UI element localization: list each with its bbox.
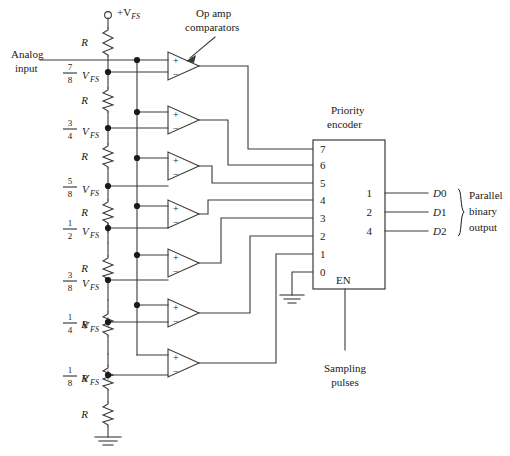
ladder-tap-label-2: 3 4 V FS [63,118,99,141]
ground-symbol-ladder [95,437,121,445]
opamp-comparators-label: Op amp comparators [185,7,239,33]
svg-text:−: − [173,217,179,228]
svg-text:+: + [173,155,179,166]
svg-text:7: 7 [320,143,326,155]
svg-text:Parallel: Parallel [469,189,503,201]
svg-text:encoder: encoder [327,118,362,130]
comparator-signs: + − + − + − + − + − + − + − [173,55,179,377]
svg-text:V: V [82,372,90,384]
svg-text:4: 4 [320,194,326,206]
svg-text:+: + [173,55,179,66]
svg-text:5: 5 [68,176,73,186]
svg-text:4: 4 [68,131,73,141]
svg-text:1: 1 [68,218,73,228]
svg-text:+: + [173,352,179,363]
ladder-tap-label-4: 1 2 V FS [63,218,99,241]
svg-text:input: input [15,62,38,74]
callout-leader-line [190,37,215,58]
svg-text:1: 1 [68,312,73,322]
wire-comparator6-to-in2 [199,236,313,313]
svg-text:5: 5 [320,177,326,189]
supply-terminal [105,12,112,28]
svg-text:4: 4 [367,225,373,237]
wire-comparator2-to-in6 [199,120,313,165]
svg-text:+: + [173,203,179,214]
svg-text:2: 2 [320,230,326,242]
svg-text:−: − [173,316,179,327]
svg-text:R: R [80,94,88,106]
svg-text:2: 2 [367,206,373,218]
svg-text:FS: FS [89,378,99,387]
svg-text:−: − [173,366,179,377]
svg-text:FS: FS [89,189,99,198]
svg-text:V: V [82,225,90,237]
svg-text:3: 3 [68,118,73,128]
svg-text:R: R [80,36,88,48]
svg-text:2: 2 [68,231,73,241]
wire-comparator4-to-in4 [199,200,313,214]
svg-text:8: 8 [68,283,73,293]
svg-text:1: 1 [68,365,73,375]
svg-text:Op amp: Op amp [196,7,232,19]
svg-text:EN: EN [336,274,351,286]
callout-arrowhead [186,55,196,63]
svg-text:V: V [82,125,90,137]
svg-text:−: − [173,123,179,134]
sampling-pulses-label: Sampling pulses [324,362,367,388]
svg-text:FS: FS [89,75,99,84]
svg-text:1: 1 [367,187,373,199]
svg-text:V: V [82,183,90,195]
svg-text:3: 3 [320,212,326,224]
svg-text:6: 6 [320,159,326,171]
svg-text:D0: D0 [432,187,447,199]
svg-text:3: 3 [68,270,73,280]
svg-text:V: V [82,319,90,331]
svg-text:R: R [80,150,88,162]
svg-text:4: 4 [68,325,73,335]
ladder-resistor-1 [103,28,113,56]
encoder-output-pins: 1 2 4 [367,187,373,237]
svg-text:FS: FS [89,231,99,240]
svg-text:D1: D1 [432,206,446,218]
ladder-resistor-8 [103,402,113,426]
wire-comparator3-to-in5 [199,166,313,183]
ladder-resistor-2 [103,88,113,112]
svg-text:V: V [82,277,90,289]
svg-text:7: 7 [68,62,73,72]
svg-text:Priority: Priority [331,104,365,116]
svg-text:−: − [173,266,179,277]
output-brace [458,189,464,236]
svg-text:+: + [173,109,179,120]
priority-encoder-label: Priority encoder [327,104,365,130]
svg-text:D2: D2 [432,225,446,237]
svg-text:pulses: pulses [331,376,359,388]
wire-in0-to-ground [292,272,313,295]
svg-text:binary: binary [469,205,498,217]
ladder-tap-label-3: 5 8 V FS [63,176,99,199]
svg-text:8: 8 [68,75,73,85]
ladder-resistor-3 [103,144,113,168]
circuit-schematic: +VFS Analog input Op amp comparators R R… [0,0,510,456]
svg-text:8: 8 [68,378,73,388]
ladder-resistor-5 [103,256,113,280]
svg-text:R: R [80,408,88,420]
svg-text:+VFS: +VFS [117,6,140,21]
svg-text:1: 1 [320,248,326,260]
ladder-tap-label-1: 7 8 V FS [63,62,99,85]
figure-canvas: +VFS Analog input Op amp comparators R R… [0,0,510,456]
svg-text:8: 8 [68,189,73,199]
output-pin-labels: D0 D1 D2 [432,187,447,237]
svg-text:V: V [82,69,90,81]
ladder-resistor-4 [103,200,113,224]
svg-text:−: − [173,69,179,80]
svg-text:output: output [469,221,497,233]
svg-text:FS: FS [89,131,99,140]
svg-text:comparators: comparators [185,21,239,33]
svg-text:R: R [80,206,88,218]
parallel-binary-output-label: Parallel binary output [469,189,503,233]
supply-label: +VFS [117,6,140,21]
wire-comparator1-to-in7 [199,66,313,149]
svg-text:0: 0 [320,266,326,278]
svg-text:FS: FS [89,325,99,334]
svg-text:−: − [173,169,179,180]
